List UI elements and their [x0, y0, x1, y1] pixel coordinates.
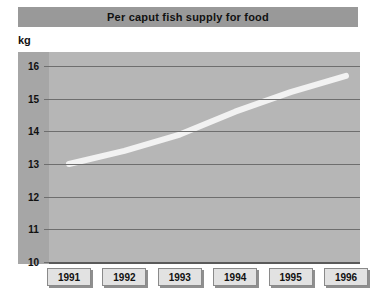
data-line	[49, 52, 360, 264]
x-tick-label: 1996	[335, 272, 357, 283]
y-axis-unit-label: kg	[18, 34, 31, 46]
gridline	[49, 197, 360, 198]
gridline	[49, 229, 360, 230]
x-tick-label: 1991	[58, 272, 80, 283]
chart-title-bar: Per caput fish supply for food	[18, 7, 358, 27]
y-tick-mark	[44, 99, 49, 100]
y-tick-mark	[44, 229, 49, 230]
plot-frame: 16151413121110	[18, 52, 360, 264]
plot-area	[49, 52, 360, 264]
chart-figure: Per caput fish supply for food kg 161514…	[0, 0, 375, 307]
gridline	[49, 164, 360, 165]
x-tick-label: 1993	[169, 272, 191, 283]
x-tick-label-box: 1991	[47, 268, 91, 286]
x-tick-label: 1994	[224, 272, 246, 283]
gridline	[49, 66, 360, 67]
x-axis-labels: 199119921993199419951996	[18, 268, 360, 294]
x-tick-label-box: 1992	[102, 268, 146, 286]
x-tick-label: 1995	[279, 272, 301, 283]
chart-title: Per caput fish supply for food	[107, 11, 269, 23]
y-tick-mark	[44, 164, 49, 165]
x-axis-baseline	[49, 262, 360, 264]
x-tick-label: 1992	[113, 272, 135, 283]
gridline	[49, 131, 360, 132]
x-tick-label-box: 1994	[213, 268, 257, 286]
y-tick-mark	[44, 262, 49, 263]
y-tick-mark	[44, 197, 49, 198]
y-tick-mark	[44, 131, 49, 132]
x-tick-label-box: 1996	[324, 268, 368, 286]
gridline	[49, 99, 360, 100]
x-tick-label-box: 1995	[269, 268, 313, 286]
x-tick-label-box: 1993	[158, 268, 202, 286]
y-tick-mark	[44, 66, 49, 67]
